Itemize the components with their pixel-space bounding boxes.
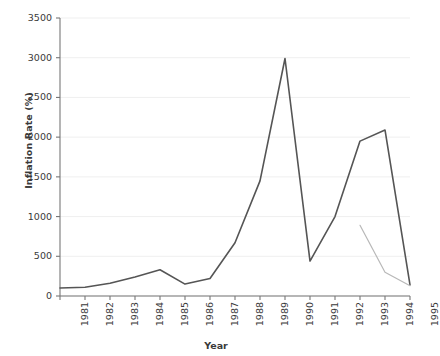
x-tick-label: 1989 bbox=[280, 302, 290, 342]
x-tick-label: 1987 bbox=[230, 302, 240, 342]
x-tick-label: 1983 bbox=[130, 302, 140, 342]
x-tick-label: 1993 bbox=[380, 302, 390, 342]
x-tick-label: 1988 bbox=[255, 302, 265, 342]
x-tick-label: 1981 bbox=[80, 302, 90, 342]
x-tick-label: 1984 bbox=[155, 302, 165, 342]
x-tick-label: 1985 bbox=[180, 302, 190, 342]
x-tick-label: 1995 bbox=[430, 302, 440, 342]
x-tick-label: 1982 bbox=[105, 302, 115, 342]
x-tick-label: 1990 bbox=[305, 302, 315, 342]
x-axis-title: Year bbox=[0, 340, 432, 351]
x-tick-label: 1994 bbox=[405, 302, 415, 342]
x-tick-label: 1991 bbox=[330, 302, 340, 342]
x-tick-label: 1992 bbox=[355, 302, 365, 342]
x-tick-label: 1986 bbox=[205, 302, 215, 342]
